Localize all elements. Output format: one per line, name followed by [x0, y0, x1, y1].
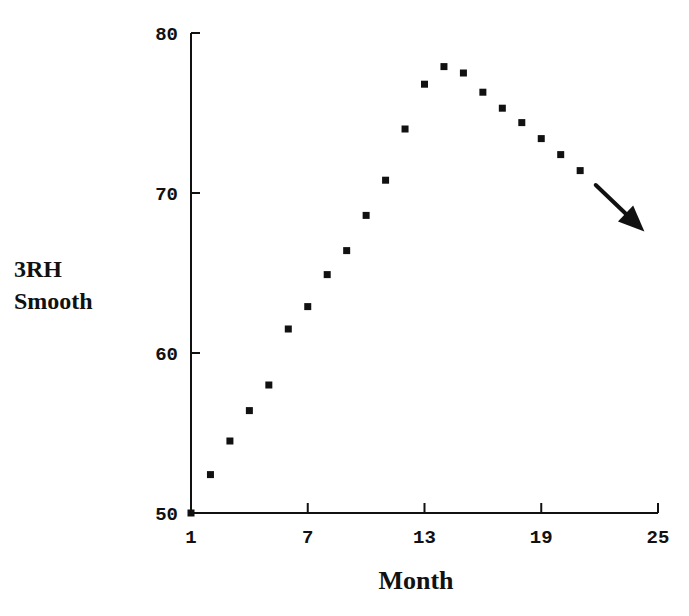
- data-point: [246, 407, 253, 414]
- y-axis-label-line-2: Smooth: [14, 285, 93, 317]
- data-point: [265, 382, 272, 389]
- data-point: [440, 63, 447, 70]
- x-tick-label: 19: [530, 527, 553, 549]
- data-point: [479, 89, 486, 96]
- data-point: [382, 177, 389, 184]
- x-tick-label: 7: [302, 527, 313, 549]
- x-tick-label: 1: [185, 527, 196, 549]
- y-axis-label: 3RH Smooth: [14, 253, 93, 317]
- data-point: [460, 70, 467, 77]
- y-tick-label: 60: [155, 344, 178, 366]
- tick-labels: 5060708017131925: [155, 24, 669, 549]
- y-tick-label: 80: [155, 24, 178, 46]
- y-axis-label-line-1: 3RH: [14, 253, 93, 285]
- data-point: [363, 212, 370, 219]
- y-tick-label: 50: [155, 504, 178, 526]
- axes: [191, 33, 658, 513]
- data-point: [188, 510, 195, 517]
- data-point: [421, 81, 428, 88]
- plot-area: 5060708017131925: [0, 0, 689, 616]
- data-point: [518, 119, 525, 126]
- data-point: [285, 326, 292, 333]
- trend-arrow-icon: [596, 185, 645, 231]
- data-point: [226, 438, 233, 445]
- data-point: [499, 105, 506, 112]
- data-point: [324, 271, 331, 278]
- data-point: [207, 471, 214, 478]
- data-points: [188, 63, 584, 516]
- x-tick-label: 25: [647, 527, 670, 549]
- x-axis-label: Month: [0, 566, 689, 596]
- data-point: [557, 151, 564, 158]
- x-tick-label: 13: [413, 527, 436, 549]
- data-point: [402, 126, 409, 133]
- data-point: [577, 167, 584, 174]
- data-point: [343, 247, 350, 254]
- data-point: [538, 135, 545, 142]
- data-point: [304, 303, 311, 310]
- y-tick-label: 70: [155, 184, 178, 206]
- scatter-chart: 5060708017131925 3RH Smooth Month: [0, 0, 689, 616]
